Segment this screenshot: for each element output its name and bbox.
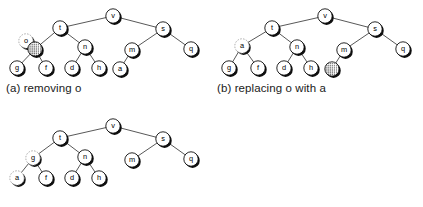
panel-c-canvas: vtsgnmqafdh <box>2 112 207 192</box>
node-label: v <box>111 11 115 20</box>
tree-node-h[interactable]: h <box>92 171 108 187</box>
tree-node-n[interactable]: n <box>78 40 94 56</box>
tree-node-t[interactable]: t <box>53 131 69 147</box>
node-label: h <box>97 173 101 182</box>
tree-node-h[interactable]: h <box>92 61 108 77</box>
tree-node-v[interactable]: v <box>318 9 334 25</box>
tree-node-q[interactable]: q <box>184 42 200 58</box>
node-label: d <box>70 173 74 182</box>
tree-node-s[interactable]: s <box>156 22 172 38</box>
tree-node-vacated[interactable] <box>325 62 341 78</box>
tree-edge-v-t <box>60 16 113 28</box>
node-label: q <box>189 44 193 53</box>
node-label: q <box>189 154 193 163</box>
tree-node-h[interactable]: h <box>304 61 320 77</box>
node-label: s <box>161 134 165 143</box>
tree-nodes: vtsgnmqafdh <box>10 119 200 187</box>
node-label: v <box>111 121 115 130</box>
tree-node-t[interactable]: t <box>53 21 69 37</box>
tree-node-d[interactable]: d <box>65 171 81 187</box>
tree-node-f[interactable]: f <box>251 61 267 77</box>
tree-node-v[interactable]: v <box>106 119 122 135</box>
tree-edge-v-t <box>60 126 113 138</box>
panel-a-caption: (a) removing o <box>6 82 82 94</box>
tree-node-a[interactable]: a <box>235 39 251 55</box>
node-label: g <box>15 63 19 72</box>
node-label: n <box>83 152 87 161</box>
tree-node-n[interactable]: n <box>78 150 94 166</box>
panel-a-canvas: vtsonmqgfdha <box>2 2 207 82</box>
tree-node-f[interactable]: f <box>39 61 55 77</box>
tree-node-q[interactable]: q <box>396 42 412 58</box>
node-label: g <box>31 153 35 162</box>
node-label: n <box>295 42 299 51</box>
tree-node-d[interactable]: d <box>277 61 293 77</box>
panel-removing-o: vtsonmqgfdha <box>2 2 207 82</box>
node-label: t <box>271 23 273 32</box>
tree-node-a[interactable]: a <box>113 62 129 78</box>
node-label: v <box>323 11 327 20</box>
tree-node-g[interactable]: g <box>222 61 238 77</box>
tree-node-q[interactable]: q <box>184 152 200 168</box>
tree-node-s[interactable]: s <box>156 132 172 148</box>
panel-replacing-o-with-a: vtsanmqgfdh <box>214 2 419 82</box>
tree-nodes: vtsonmqgfdha <box>10 9 200 78</box>
tree-node-a[interactable]: a <box>10 171 26 187</box>
node-label: n <box>83 42 87 51</box>
tree-node-g[interactable]: g <box>10 61 26 77</box>
node-label: h <box>309 63 313 72</box>
tree-node-s[interactable]: s <box>368 22 384 38</box>
node-label: m <box>341 45 347 54</box>
node-label: o <box>24 36 28 45</box>
node-label: d <box>282 63 286 72</box>
node-label: t <box>59 23 61 32</box>
node-label: m <box>129 155 135 164</box>
node-label: h <box>97 63 101 72</box>
node-label: d <box>70 63 74 72</box>
tree-edge-v-t <box>272 16 325 28</box>
tree-node-t[interactable]: t <box>265 21 281 37</box>
node-label: m <box>129 45 135 54</box>
panel-b-canvas: vtsanmqgfdh <box>214 2 419 82</box>
bst-deletion-figure: vtsonmqgfdha vtsanmqgfdh vtsgnmqafdh (a)… <box>0 0 423 207</box>
tree-node-n[interactable]: n <box>290 40 306 56</box>
node-circle-stippled <box>325 62 339 76</box>
node-circle-stippled <box>28 42 42 56</box>
node-label: s <box>161 24 165 33</box>
tree-nodes: vtsanmqgfdh <box>222 9 412 78</box>
panel-b-caption: (b) replacing o with a <box>217 82 326 94</box>
panel-final-tree: vtsgnmqafdh <box>2 112 207 192</box>
tree-node-f[interactable]: f <box>39 171 55 187</box>
tree-node-removed[interactable] <box>28 42 44 58</box>
node-label: s <box>373 24 377 33</box>
tree-node-d[interactable]: d <box>65 61 81 77</box>
node-label: q <box>401 44 405 53</box>
node-label: g <box>227 63 231 72</box>
tree-node-v[interactable]: v <box>106 9 122 25</box>
node-label: t <box>59 133 61 142</box>
